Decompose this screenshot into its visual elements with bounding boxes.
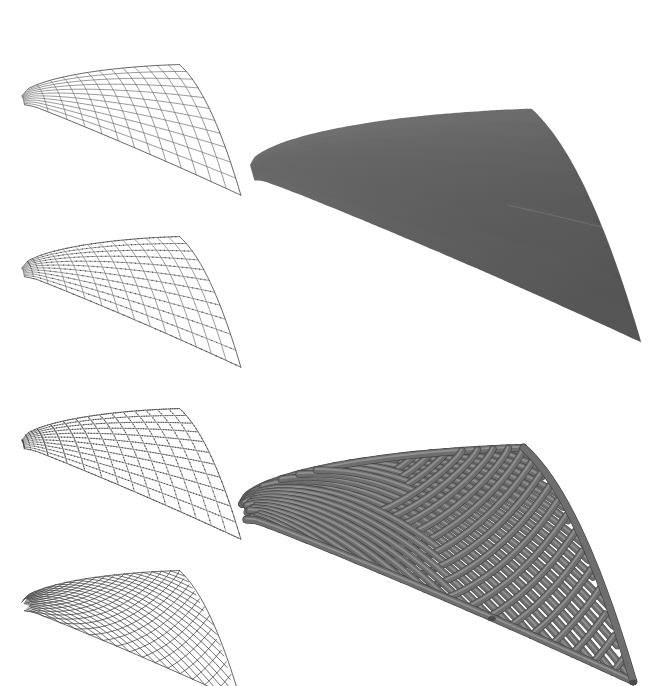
mesh-node-marker [183,415,184,416]
mesh-node-marker [127,250,128,251]
mesh-node-marker [169,257,170,258]
mesh-node-marker [157,264,158,265]
mesh-node-marker [118,444,119,445]
mesh-node-marker [143,467,144,468]
mesh-node-marker [174,408,175,409]
mesh-node-marker [94,428,95,429]
mesh-node-marker [94,461,95,462]
mesh-node-marker [76,261,77,262]
mesh-node-marker [158,415,159,416]
mesh-node-marker [119,469,120,470]
mesh-node-marker [135,454,136,455]
mesh-node-marker [185,422,186,423]
mesh-node-marker [170,422,171,423]
mesh-node-marker [66,461,67,462]
mesh-node-marker [34,446,35,447]
mesh-node-marker [91,473,92,474]
mesh-node-marker [112,417,113,418]
mesh-node-marker [101,423,102,424]
mesh-node-marker [176,487,177,488]
mesh-v-rib [134,239,181,340]
mesh-v-rib [111,69,150,154]
mesh-node-marker [115,288,116,289]
mesh-node-marker [107,308,108,309]
mesh-node-marker [38,272,39,273]
mesh-node-marker [104,261,105,262]
mesh-node-marker [177,422,178,423]
mesh-node-marker [32,273,33,274]
mesh-node-marker [134,434,135,435]
mesh-node-marker [196,334,197,335]
mesh-node-marker [71,253,72,254]
mesh-node-marker [186,342,187,343]
mesh-node-marker [127,448,128,449]
mesh-node-marker [98,456,99,457]
mesh-node-marker [150,488,151,489]
mesh-node-marker [40,442,41,443]
mesh-node-marker [130,448,131,449]
mesh-node-marker [67,445,68,446]
mesh-node-marker [71,288,72,289]
mesh-node-marker [141,450,142,451]
mesh-node-marker [190,469,191,470]
mesh-node-marker [61,430,62,431]
mesh-node-marker [41,254,42,255]
mesh-node-marker [208,477,209,478]
mesh-node-marker [170,243,171,244]
mesh-node-marker [128,428,129,429]
mesh-node-marker [70,419,71,420]
mesh-node-marker [145,459,146,460]
mesh-node-marker [157,436,158,437]
mesh-node-marker [145,483,146,484]
mesh-node-marker [87,443,88,444]
mesh-node-marker [137,238,138,239]
mesh-node-marker [152,317,153,318]
mesh-node-marker [66,459,67,460]
mesh-node-marker [170,465,171,466]
mesh-node-marker [73,293,74,294]
mesh-node-marker [44,425,45,426]
mesh-node-marker [117,281,118,282]
quad-mesh-node-markers-svg [0,172,250,352]
mesh-node-marker [132,484,133,485]
mesh-node-marker [66,248,67,249]
mesh-node-marker [95,261,96,262]
mesh-node-marker [156,490,157,491]
mesh-node-marker [139,250,140,251]
mesh-node-marker [81,469,82,470]
mesh-node-marker [172,446,173,447]
mesh-node-marker [174,266,175,267]
mesh-node-marker [198,460,199,461]
mesh-node-marker [144,416,145,417]
mesh-node-marker [91,243,92,244]
mesh-node-marker [213,500,214,501]
mesh-node-marker [83,447,84,448]
mesh-node-marker [194,481,195,482]
mesh-node-marker [170,437,171,438]
mesh-node-marker [189,495,190,496]
mesh-node-marker [129,434,130,435]
mesh-node-marker [188,417,189,418]
mesh-node-marker [221,481,222,482]
mesh-node-marker [68,427,69,428]
mesh-node-marker [88,472,89,473]
mesh-node-marker [33,429,34,430]
mesh-node-marker [125,471,126,472]
mesh-node-marker [116,453,117,454]
mesh-node-marker [131,456,132,457]
mesh-node-marker [165,415,166,416]
mesh-node-marker [130,262,131,263]
mesh-node-marker [54,251,55,252]
mesh-node-marker [71,455,72,456]
mesh-node-marker [120,412,121,413]
mesh-node-marker [107,246,108,247]
mesh-node-marker [206,462,207,463]
mesh-node-marker [172,415,173,416]
mesh-node-marker [117,481,118,482]
mesh-v-rib [134,411,181,512]
mesh-node-marker [28,442,29,443]
mesh-node-marker [57,424,58,425]
mesh-node-marker [68,265,69,266]
mesh-node-marker [181,258,182,259]
mesh-node-marker [53,450,54,451]
